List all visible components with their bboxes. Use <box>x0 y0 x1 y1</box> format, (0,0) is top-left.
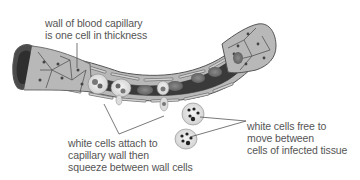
label-line: move between <box>247 132 347 144</box>
label-line: white cells attach to <box>68 137 193 149</box>
capillary-diagram: wall of blood capillary is one cell in t… <box>0 0 360 180</box>
label-white-cells-attach: white cells attach to capillary wall the… <box>68 137 193 173</box>
label-line: is one cell in thickness <box>45 29 147 41</box>
label-capillary-wall: wall of blood capillary is one cell in t… <box>45 17 147 41</box>
label-line: cells of infected tissue <box>247 144 347 156</box>
label-line: white cells free to <box>247 120 347 132</box>
capillary-left-end <box>13 45 92 92</box>
label-line: wall of blood capillary <box>45 17 147 29</box>
capillary-right-end <box>222 24 276 73</box>
leader-line-attach <box>104 104 164 134</box>
label-line: capillary wall then <box>68 149 193 161</box>
label-line: squeeze between wall cells <box>68 161 193 173</box>
label-white-cells-free: white cells free to move between cells o… <box>247 120 347 156</box>
